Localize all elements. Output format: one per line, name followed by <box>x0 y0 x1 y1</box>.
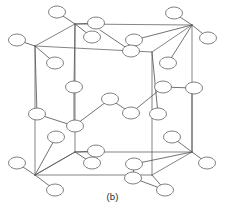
atom-a13 <box>186 82 203 94</box>
atom-a26 <box>125 172 142 184</box>
atom-layer <box>9 6 217 196</box>
atom-a21 <box>88 145 105 157</box>
atom-a03 <box>84 31 101 43</box>
bond-7 <box>134 25 192 40</box>
atom-a08 <box>126 34 143 46</box>
atom-a06 <box>9 34 26 46</box>
atom-a23 <box>9 157 26 169</box>
crystal-lattice-svg <box>0 0 225 220</box>
atom-a10 <box>160 57 177 69</box>
cube-edge-front_top_right-to-back_top_right <box>152 25 192 52</box>
atom-a17 <box>150 108 167 120</box>
figure-caption: (b) <box>0 191 225 202</box>
lattice-figure: (b) <box>0 0 225 220</box>
cube-edge-front_bottom_right-to-back_bottom_right <box>152 152 192 175</box>
atom-a14 <box>102 93 119 105</box>
atom-a01 <box>49 6 66 18</box>
atom-a25 <box>126 158 143 170</box>
bond-28 <box>134 152 192 164</box>
atom-a11 <box>66 81 83 93</box>
atom-a24 <box>199 157 216 169</box>
atom-a18 <box>67 120 84 132</box>
atom-a20 <box>164 131 181 143</box>
atom-a04 <box>166 7 183 19</box>
atom-a16 <box>29 108 46 120</box>
atom-a12 <box>155 81 172 93</box>
atom-a07 <box>47 57 64 69</box>
atom-a22 <box>84 157 101 169</box>
atom-a15 <box>123 107 140 119</box>
cube-edge-front_top_left-to-back_top_left <box>35 24 75 46</box>
atom-a09 <box>123 45 140 57</box>
atom-a19 <box>48 131 65 143</box>
atom-a02 <box>88 17 105 29</box>
atom-a05 <box>200 32 217 44</box>
